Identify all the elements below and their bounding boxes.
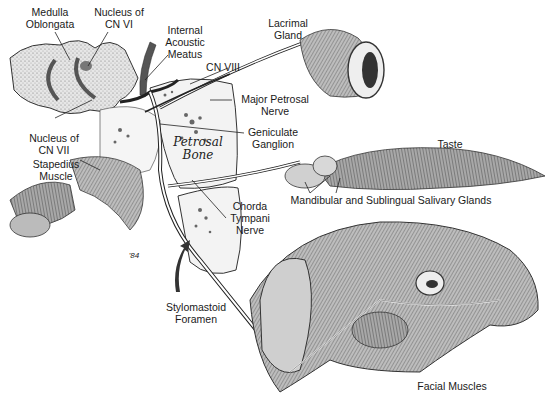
label-text: Geniculate Ganglion xyxy=(248,126,298,150)
label-text: Taste xyxy=(437,138,462,150)
label-text: Lacrimal Gland xyxy=(268,17,308,41)
label-chorda-tympani-nerve: Chorda Tympani Nerve xyxy=(226,200,274,236)
label-facial-muscles: Facial Muscles xyxy=(412,380,492,392)
label-text: Stylomastoid Foramen xyxy=(166,301,226,325)
medulla-oblongata-drawing xyxy=(10,41,138,114)
label-major-petrosal-nerve: Major Petrosal Nerve xyxy=(234,93,316,117)
label-text: Internal Acoustic Meatus xyxy=(165,24,205,60)
label-nucleus-cn-vii: Nucleus of CN VII xyxy=(24,132,84,156)
label-text: '84 xyxy=(129,251,139,260)
tongue-drawing xyxy=(285,148,545,190)
label-text: Nucleus of CN VII xyxy=(29,132,79,156)
label-internal-acoustic-meatus: Internal Acoustic Meatus xyxy=(155,24,215,60)
label-medulla-oblongata: Medulla Oblongata xyxy=(20,6,80,30)
label-nucleus-cn-vi: Nucleus of CN VI xyxy=(88,6,150,30)
arrow-icon xyxy=(175,240,190,292)
label-text: Petrosal Bone xyxy=(173,135,223,162)
label-taste: Taste xyxy=(430,138,470,150)
label-salivary-glands: Mandibular and Sublingual Salivary Gland… xyxy=(286,194,496,206)
label-petrosal-bone: Petrosal Bone xyxy=(170,136,226,162)
label-text: CN VIII xyxy=(206,61,240,73)
label-stylomastoid-foramen: Stylomastoid Foramen xyxy=(160,301,232,325)
facial-nerve-diagram: Medulla Oblongata Nucleus of CN VI Inter… xyxy=(0,0,550,416)
label-text: Nucleus of CN VI xyxy=(94,6,144,30)
label-text: Stapedius Muscle xyxy=(33,158,80,182)
label-text: Chorda Tympani Nerve xyxy=(230,200,270,236)
label-text: Major Petrosal Nerve xyxy=(241,93,309,117)
label-text: Facial Muscles xyxy=(417,380,486,392)
label-text: Medulla Oblongata xyxy=(26,6,74,30)
artist-signature: '84 xyxy=(124,250,144,262)
label-text: Mandibular and Sublingual Salivary Gland… xyxy=(291,194,492,206)
label-stapedius-muscle: Stapedius Muscle xyxy=(28,158,84,182)
label-lacrimal-gland: Lacrimal Gland xyxy=(260,17,316,41)
anatomy-illustration xyxy=(0,0,550,416)
label-geniculate-ganglion: Geniculate Ganglion xyxy=(244,126,302,150)
label-cn-viii: CN VIII xyxy=(198,61,248,73)
dog-head-drawing xyxy=(250,222,538,392)
